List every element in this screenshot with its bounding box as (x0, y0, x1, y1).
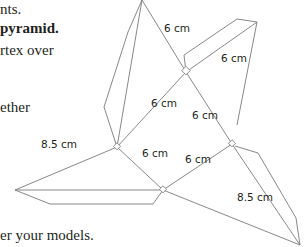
left-flap (104, 0, 142, 147)
pyramid-net-diagram: 6 cm 6 cm 6 cm 6 cm 8.5 cm 6 cm 6 cm 8.5… (0, 0, 307, 247)
label-mid-left-8-5cm: 8.5 cm (41, 138, 77, 150)
label-center-6cm: 6 cm (151, 97, 177, 109)
label-top-left-6cm: 6 cm (164, 22, 190, 34)
label-top-right-6cm: 6 cm (221, 52, 247, 64)
bottom-left-flap (15, 190, 163, 204)
label-right-of-center-6cm: 6 cm (192, 109, 218, 121)
upper-flap (184, 19, 257, 55)
right-angle-marker-d (159, 186, 166, 193)
label-lower-mid-6cm: 6 cm (185, 153, 211, 165)
label-right-8-5cm: 8.5 cm (237, 191, 273, 203)
label-mid-6cm: 6 cm (142, 147, 168, 159)
